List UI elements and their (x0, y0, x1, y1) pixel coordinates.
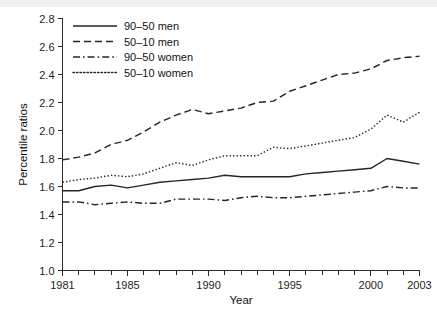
figure-container: 1.01.21.41.61.82.02.22.42.62.8 198119851… (0, 0, 437, 317)
y-axis-tick-label: 1.0 (39, 265, 54, 277)
x-axis-tick-label: 2003 (407, 279, 431, 291)
x-axis-tick-label: 1981 (50, 279, 74, 291)
chart-legend: 90–50 men50–10 men90–50 women50–10 women (73, 20, 193, 79)
y-axis-tick-label: 2.8 (39, 13, 54, 25)
y-axis-tick-label: 1.2 (39, 237, 54, 249)
y-axis-tick-label: 1.6 (39, 181, 54, 193)
legend-label-4: 50–10 women (124, 67, 193, 79)
y-axis-tick-label: 2.0 (39, 125, 54, 137)
x-axis-tick-group: 198119851990199520002003 (50, 271, 431, 291)
y-axis-tick-label: 2.2 (39, 97, 54, 109)
x-axis-tick-label: 1995 (277, 279, 301, 291)
y-axis-tick-label: 1.8 (39, 153, 54, 165)
scan-artifact-band (0, 0, 437, 7)
series-line-3 (63, 187, 420, 205)
series-line-4 (63, 112, 420, 182)
x-axis-tick-label: 1985 (115, 279, 139, 291)
x-axis-title: Year (229, 294, 252, 306)
y-axis-title: Percentile ratios (17, 103, 29, 186)
y-axis-tick-label: 2.4 (39, 69, 54, 81)
series-group (63, 56, 420, 204)
x-axis-tick-label: 2000 (359, 279, 383, 291)
y-axis-tick-label: 2.6 (39, 41, 54, 53)
series-line-1 (63, 159, 420, 191)
y-axis-tick-group: 1.01.21.41.61.82.02.22.42.62.8 (39, 13, 62, 277)
y-axis-tick-label: 1.4 (39, 209, 54, 221)
legend-label-1: 90–50 men (124, 20, 179, 32)
percentile-ratios-line-chart: 1.01.21.41.61.82.02.22.42.62.8 198119851… (0, 0, 437, 317)
legend-label-2: 50–10 men (124, 36, 179, 48)
legend-label-3: 90–50 women (124, 51, 193, 63)
x-axis-tick-label: 1990 (196, 279, 220, 291)
